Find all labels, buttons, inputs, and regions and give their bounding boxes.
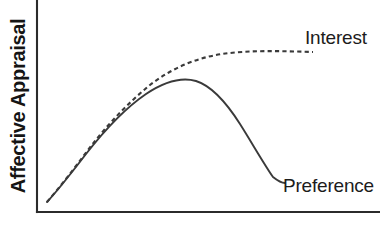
y-axis-label-container: Affective Appraisal (0, 0, 36, 212)
chart-container: Interest Preference Affective Appraisal (0, 0, 380, 229)
series-label-preference: Preference (283, 176, 374, 195)
series-label-interest: Interest (305, 28, 367, 47)
y-axis-label: Affective Appraisal (8, 19, 28, 194)
series-curve-preference (47, 80, 285, 202)
series-curve-interest (47, 51, 313, 202)
